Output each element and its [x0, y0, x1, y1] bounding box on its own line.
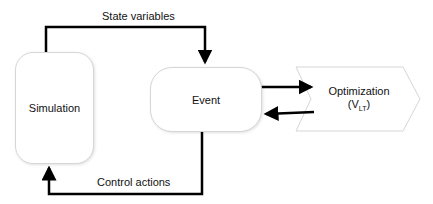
optimization-sub-open: (V — [348, 98, 359, 110]
optimization-label: Optimization (VLT) — [311, 85, 407, 115]
simulation-node: Simulation — [15, 52, 94, 164]
optimization-subtitle: (VLT) — [311, 98, 407, 115]
optimization-title: Optimization — [311, 85, 407, 98]
event-node: Event — [150, 67, 262, 132]
event-label: Event — [192, 94, 220, 106]
state-variables-label: State variables — [102, 10, 175, 22]
optimization-sub-close: ) — [366, 98, 370, 110]
control-actions-label: Control actions — [97, 176, 170, 188]
simulation-label: Simulation — [29, 102, 80, 114]
